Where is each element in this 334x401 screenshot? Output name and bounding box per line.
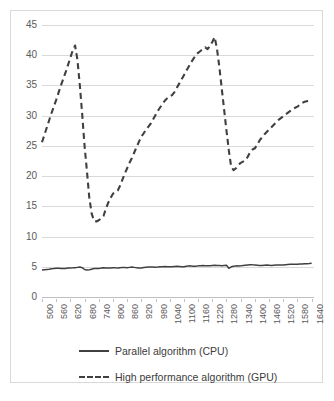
y-tick-label-15: 15: [26, 201, 37, 211]
legend-line-dashed-icon: [79, 372, 109, 382]
x-tick-label-920: 920: [145, 304, 154, 319]
x-tick-label-860: 860: [131, 304, 140, 319]
y-tick-label-25: 25: [26, 141, 37, 151]
x-tick-mark-1220: [212, 299, 213, 302]
x-tick-mark-1580: [297, 299, 298, 302]
y-tick-label-45: 45: [26, 20, 37, 30]
x-tick-mark-1340: [241, 299, 242, 302]
x-tick-label-740: 740: [103, 304, 112, 319]
x-tick-label-1220: 1220: [216, 304, 225, 324]
series-line-cpu: [42, 263, 312, 270]
gridline-0: [42, 297, 314, 298]
x-tick-label-1100: 1100: [188, 304, 197, 323]
x-tick-label-1640: 1640: [316, 304, 325, 324]
x-tick-mark-500: [42, 299, 43, 302]
x-tick-mark-1040: [170, 299, 171, 302]
legend-item-gpu: High performance algorithm (GPU): [21, 366, 334, 388]
x-tick-label-1580: 1580: [301, 304, 310, 324]
y-tick-label-20: 20: [26, 171, 37, 181]
series-layer: [42, 25, 314, 297]
legend-label-cpu: Parallel algorithm (CPU): [115, 345, 228, 357]
x-tick-label-1340: 1340: [245, 304, 254, 324]
x-tick-label-1280: 1280: [230, 304, 239, 324]
legend-label-gpu: High performance algorithm (GPU): [115, 371, 277, 383]
x-tick-mark-860: [127, 299, 128, 302]
x-tick-mark-920: [141, 299, 142, 302]
x-tick-mark-1400: [255, 299, 256, 302]
x-tick-label-1160: 1160: [202, 304, 211, 323]
chart-frame: 051015202530354045 500560620680740800860…: [10, 10, 323, 383]
x-tick-mark-1100: [184, 299, 185, 302]
y-tick-label-40: 40: [26, 50, 37, 60]
x-tick-mark-1460: [269, 299, 270, 302]
x-tick-mark-620: [70, 299, 71, 302]
x-tick-mark-1520: [283, 299, 284, 302]
y-tick-label-35: 35: [26, 80, 37, 90]
y-tick-label-10: 10: [26, 232, 37, 242]
x-tick-mark-800: [113, 299, 114, 302]
x-tick-label-1520: 1520: [287, 304, 296, 324]
legend-line-solid-icon: [79, 346, 109, 356]
x-tick-mark-1160: [198, 299, 199, 302]
y-tick-label-30: 30: [26, 111, 37, 121]
x-tick-label-680: 680: [89, 304, 98, 319]
x-tick-label-500: 500: [46, 304, 55, 319]
chart-legend: Parallel algorithm (CPU) High performanc…: [21, 338, 334, 394]
x-tick-label-980: 980: [160, 304, 169, 319]
y-axis-labels: 051015202530354045: [11, 25, 42, 297]
x-axis-labels: 5005606206807408008609209801040110011601…: [42, 299, 314, 339]
x-tick-label-800: 800: [117, 304, 126, 319]
x-tick-mark-1280: [226, 299, 227, 302]
x-tick-label-1460: 1460: [273, 304, 282, 324]
chart-screenshot: 051015202530354045 500560620680740800860…: [0, 0, 334, 401]
legend-item-cpu: Parallel algorithm (CPU): [21, 340, 334, 362]
x-tick-mark-560: [56, 299, 57, 302]
y-tick-label-5: 5: [31, 262, 37, 272]
x-tick-label-1400: 1400: [259, 304, 268, 324]
series-line-gpu: [42, 37, 312, 221]
x-tick-label-560: 560: [60, 304, 69, 319]
x-tick-mark-740: [99, 299, 100, 302]
x-tick-label-620: 620: [74, 304, 83, 319]
x-tick-mark-1640: [312, 299, 313, 302]
y-tick-label-0: 0: [31, 292, 37, 302]
x-tick-mark-980: [156, 299, 157, 302]
plot-area: [42, 25, 314, 297]
x-tick-mark-680: [85, 299, 86, 302]
x-tick-label-1040: 1040: [174, 304, 183, 324]
